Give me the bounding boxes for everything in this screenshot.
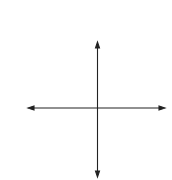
y-axis-up-arrow-icon <box>96 42 100 48</box>
y-axis-down-arrow-icon <box>96 171 100 177</box>
x-axis-left-arrow-icon <box>28 106 34 110</box>
parabola-graph <box>0 0 172 180</box>
axes <box>28 42 165 177</box>
x-axis-right-arrow-icon <box>159 106 165 110</box>
